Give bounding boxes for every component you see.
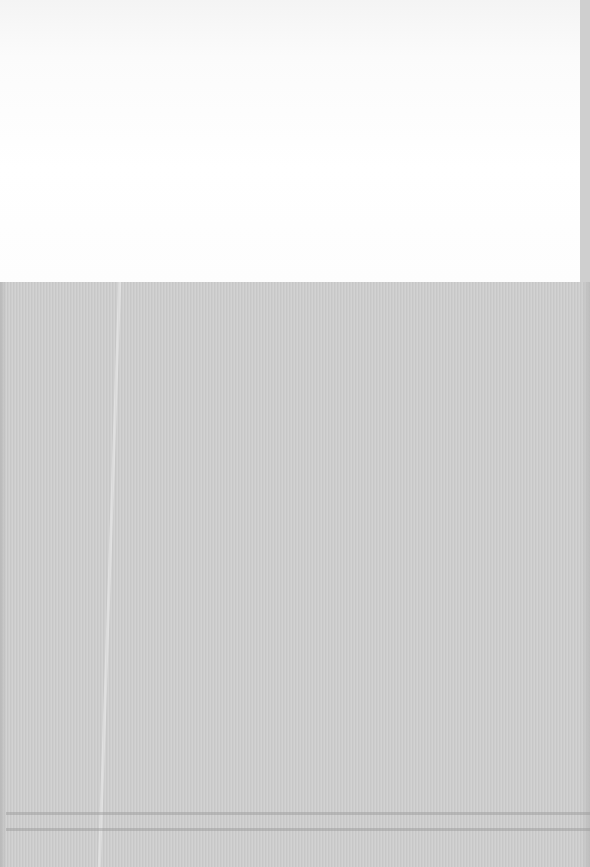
left-edge-shadow bbox=[0, 282, 6, 867]
grey-fabric-background bbox=[0, 282, 590, 867]
fabric-fold-line bbox=[6, 828, 590, 831]
right-edge-shadow bbox=[582, 282, 590, 867]
fabric-fold-line bbox=[6, 812, 590, 815]
blank-paper-sheet bbox=[0, 0, 580, 282]
